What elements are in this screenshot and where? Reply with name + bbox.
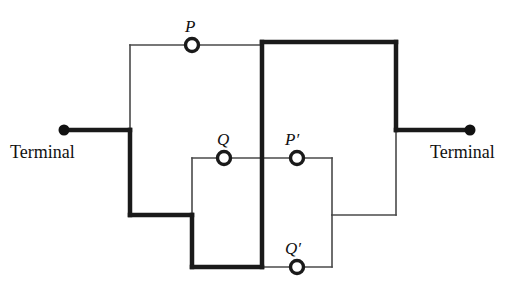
node-Q-prime-label: Q′ [285, 240, 301, 257]
terminal-left-dot [59, 125, 70, 136]
node-Q-prime[interactable] [291, 261, 304, 274]
terminal-left-label: Terminal [10, 143, 75, 161]
node-P-prime[interactable] [291, 152, 304, 165]
node-P[interactable] [186, 39, 199, 52]
node-Q-label: Q [217, 131, 229, 148]
diagram-canvas: PQP′Q′TerminalTerminal [0, 0, 520, 288]
node-Q[interactable] [218, 152, 231, 165]
node-P-prime-label: P′ [285, 131, 299, 148]
terminal-right-label: Terminal [430, 143, 495, 161]
terminal-right-dot [465, 125, 476, 136]
node-P-label: P [185, 18, 195, 35]
